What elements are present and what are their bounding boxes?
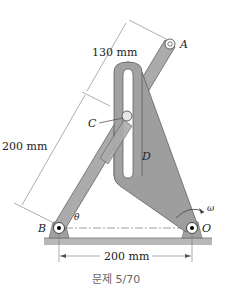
- ground: [44, 238, 212, 245]
- label-d: D: [141, 150, 151, 163]
- dim-label-base: 200 mm: [104, 250, 150, 263]
- dim-label-130: 130 mm: [92, 46, 138, 59]
- label-b: B: [37, 222, 46, 235]
- figure-caption: 문제 5/70: [92, 273, 140, 286]
- dim-label-200-arm: 200 mm: [2, 140, 48, 153]
- pin-c: [122, 111, 132, 121]
- pin-a: [165, 39, 175, 49]
- label-a: A: [179, 38, 188, 51]
- label-omega: ω: [207, 203, 215, 213]
- label-c: C: [88, 117, 97, 130]
- label-o: O: [202, 222, 211, 235]
- label-theta: θ: [74, 212, 80, 222]
- mechanism-diagram: A B C D O θ ω 130 mm 200 mm 200 mm 문제 5/…: [0, 0, 230, 297]
